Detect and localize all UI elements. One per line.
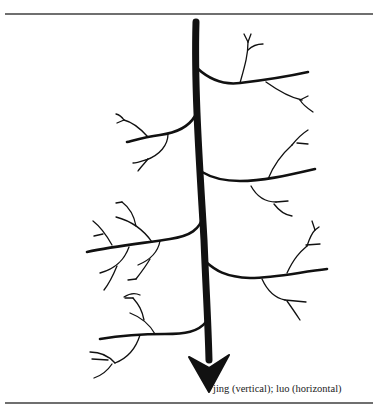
jing-luo-diagram <box>0 0 374 412</box>
bottom-rule <box>5 402 373 404</box>
luo-branch-2 <box>116 114 195 171</box>
luo-branch-1 <box>197 34 313 112</box>
luo-branch-3 <box>202 130 315 216</box>
figure-caption: jing (vertical); luo (horizontal) <box>213 383 342 394</box>
luo-branch-4 <box>87 202 204 297</box>
luo-branch-5 <box>206 221 327 320</box>
luo-branch-6 <box>90 298 206 378</box>
